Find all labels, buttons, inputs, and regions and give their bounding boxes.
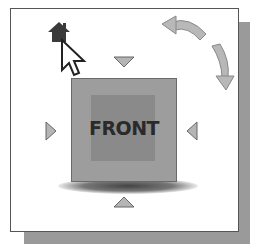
arrow-cursor-icon — [60, 38, 88, 80]
viewcube-front-face[interactable]: FRONT — [71, 78, 177, 182]
face-label: FRONT — [72, 117, 176, 139]
rotate-clockwise-arrow-icon[interactable] — [208, 42, 238, 92]
rotate-counterclockwise-arrow-icon[interactable] — [160, 12, 210, 44]
